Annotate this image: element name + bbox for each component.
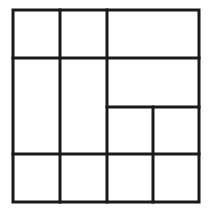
partition-lines <box>13 10 199 202</box>
grid-partition-figure <box>0 0 210 213</box>
grid-diagram <box>0 0 210 213</box>
